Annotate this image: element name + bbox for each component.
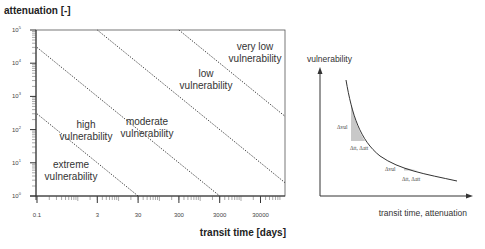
svg-text:3000: 3000 — [213, 212, 227, 218]
svg-text:vulnerability: vulnerability — [45, 171, 98, 182]
svg-text:vulnerability: vulnerability — [60, 131, 113, 142]
label-moderate: moderate — [126, 116, 169, 127]
vulnerability-axis-title: vulnerability — [307, 54, 353, 64]
flat-dx-label: Δtt, Δatt — [402, 176, 421, 182]
x-minor-ticks — [49, 196, 280, 201]
y-tick-labels: 105 104 103 102 101 100 — [12, 25, 22, 199]
transit-axis-title: transit time, attenuation — [379, 208, 468, 218]
flat-dvul-label: Δvul — [385, 166, 396, 172]
svg-text:104: 104 — [12, 58, 22, 66]
x-tick-labels: 0.1 3 30 300 3000 30000 — [33, 212, 270, 218]
svg-text:105: 105 — [12, 25, 22, 33]
svg-text:300: 300 — [174, 212, 185, 218]
y-major-ticks — [30, 30, 36, 196]
svg-text:vulnerability: vulnerability — [229, 53, 282, 64]
arrow-up-icon — [318, 67, 323, 74]
svg-text:0.1: 0.1 — [33, 212, 42, 218]
steep-dvul-label: Δvul — [337, 124, 348, 130]
region-labels: very low vulnerability low vulnerability… — [45, 41, 282, 182]
svg-text:3: 3 — [96, 212, 100, 218]
svg-text:30: 30 — [135, 212, 142, 218]
svg-text:vulnerability: vulnerability — [180, 80, 233, 91]
right-chart: vulnerability transit time, attenuation … — [307, 54, 473, 218]
svg-text:101: 101 — [12, 158, 22, 166]
label-high: high — [77, 119, 96, 130]
x-major-ticks — [37, 196, 261, 203]
svg-text:100: 100 — [12, 191, 22, 199]
label-very-low: very low — [237, 41, 274, 52]
vulnerability-curve — [346, 80, 457, 181]
svg-text:103: 103 — [12, 91, 22, 99]
label-low: low — [198, 68, 214, 79]
svg-text:vulnerability: vulnerability — [121, 128, 174, 139]
x-axis-title: transit time [days] — [200, 227, 286, 238]
steep-dx-label: Δtt, Δatt — [350, 145, 369, 151]
y-axis-title: attenuation [-] — [4, 5, 71, 16]
figure: attenuation [-] 105 104 103 102 101 100 — [0, 0, 485, 249]
svg-text:102: 102 — [12, 125, 22, 133]
label-extreme: extreme — [53, 159, 90, 170]
arrow-right-icon — [466, 194, 473, 199]
left-chart: attenuation [-] 105 104 103 102 101 100 — [4, 5, 286, 238]
svg-text:30000: 30000 — [252, 212, 269, 218]
